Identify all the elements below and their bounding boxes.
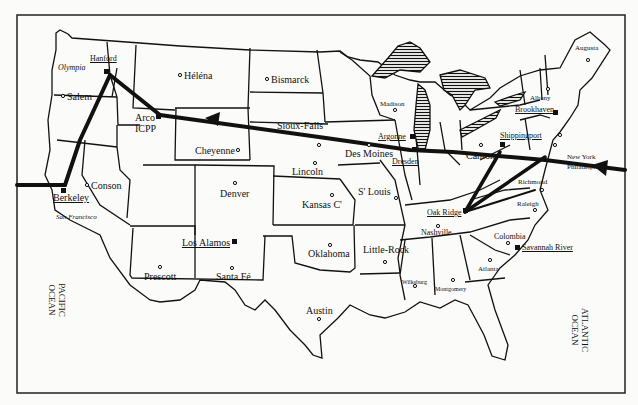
site-berkeley: Berkeley — [53, 192, 89, 203]
city-denver: Denver — [220, 188, 249, 199]
city-helena: Héléna — [184, 70, 212, 81]
city-conson: Conson — [91, 180, 122, 191]
city-madison: Madison — [380, 100, 405, 108]
site-los-alamos: Los Alamos — [182, 237, 230, 248]
city-san-francisco: San Francisco — [56, 212, 97, 223]
city-philadelphia: Philadelphia — [567, 163, 602, 171]
city-nashville: Nashville — [421, 227, 452, 238]
site-oak-ridge: Oak Ridge — [427, 207, 461, 218]
city-lincoln: Lincoln — [292, 166, 323, 177]
site-brookhaven: Brookhaven — [515, 104, 554, 115]
city-olympia: Olympia — [58, 62, 86, 73]
city-bismarck: Bismarck — [271, 74, 309, 85]
city-canton: Canton — [466, 150, 495, 161]
site-hanford: Hanford — [90, 53, 117, 64]
city-wilksburg: Wilksburg — [402, 278, 427, 286]
city-new-york: New York — [567, 153, 595, 161]
pacific-ocean-label: PACIFIC OCEAN — [47, 283, 67, 317]
city-atlanta: Atlanta — [478, 265, 499, 273]
atlantic-ocean-label: ATLANTIC OCEAN — [570, 308, 590, 352]
city-kansas-city: Kansas C' — [302, 199, 342, 210]
city-austin: Austin — [306, 305, 333, 316]
site-savannah-river: Savannah River — [522, 242, 573, 253]
city-des-moines: Des Moines — [345, 148, 393, 159]
site-arco-icpp: Arco ICPP — [135, 112, 156, 134]
city-little-rock: Little-Rock — [363, 244, 409, 255]
city-salem: Salem — [67, 91, 92, 102]
city-augusta: Augusta — [575, 44, 598, 52]
city-st-louis: S' Louis — [358, 186, 391, 197]
city-prescott: Prescott — [144, 271, 176, 282]
city-albany: Albany — [530, 94, 551, 102]
site-argonne: Argonne — [378, 131, 406, 142]
city-cheyenne: Cheyenne — [195, 145, 235, 156]
site-dresden: Dresden — [392, 156, 419, 167]
city-colombia: Colombia — [494, 231, 526, 242]
city-sioux-falls: Sioux-Falls — [277, 120, 323, 131]
city-santa-fe: Santa Fé — [216, 271, 251, 282]
city-richmond: Richmond — [518, 178, 547, 186]
site-shippingport: Shippingport — [500, 130, 542, 141]
city-raleigh: Raleigh — [517, 200, 539, 208]
city-montgomery: Montgomery — [435, 285, 466, 293]
city-oklahoma: Oklahoma — [308, 248, 350, 259]
